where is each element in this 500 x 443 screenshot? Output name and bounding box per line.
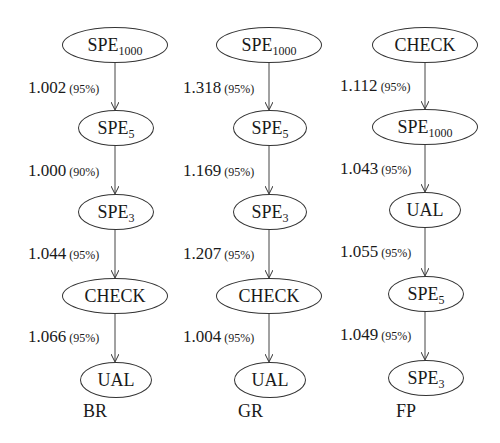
node-label: SPE3: [251, 202, 288, 223]
column-label-fp: FP: [396, 401, 416, 422]
gr-edge-label-4: 1.004(95%): [183, 327, 254, 347]
br-node-spe5: SPE5: [78, 110, 154, 146]
column-label-br: BR: [83, 401, 107, 422]
br-edge-label-3: 1.044(95%): [28, 244, 99, 264]
node-label: SPE5: [407, 284, 444, 305]
br-edge-label-4: 1.066(95%): [28, 327, 99, 347]
node-label: UAL: [98, 370, 135, 391]
fp-node-spe3: SPE3: [388, 360, 464, 396]
gr-node-spe3: SPE3: [233, 194, 307, 230]
gr-node-spe5: SPE5: [233, 110, 307, 146]
node-label: SPE1000: [87, 35, 142, 56]
br-node-ual: UAL: [80, 362, 152, 398]
column-label-gr: GR: [238, 401, 263, 422]
gr-node-check: CHECK: [216, 278, 322, 314]
node-label: CHECK: [394, 35, 455, 56]
node-label: SPE3: [407, 368, 444, 389]
node-label: UAL: [252, 370, 289, 391]
fp-edge-label-1: 1.112(95%): [340, 76, 411, 96]
fp-edge-label-2: 1.043(95%): [340, 159, 411, 179]
fp-node-spe1000: SPE1000: [372, 109, 478, 145]
br-edge-label-1: 1.002(95%): [28, 78, 99, 98]
node-label: SPE5: [251, 118, 288, 139]
br-node-spe1000: SPE1000: [62, 27, 168, 63]
fp-edge-label-4: 1.049(95%): [340, 325, 411, 345]
fp-node-check: CHECK: [372, 27, 478, 63]
fp-node-spe5: SPE5: [388, 276, 464, 312]
br-edge-label-2: 1.000(90%): [28, 161, 99, 181]
gr-node-ual: UAL: [234, 362, 306, 398]
gr-edge-label-1: 1.318(95%): [183, 78, 254, 98]
gr-edge-label-3: 1.207(95%): [183, 244, 254, 264]
br-node-check: CHECK: [62, 278, 168, 314]
node-label: SPE5: [97, 118, 134, 139]
gr-node-spe1000: SPE1000: [216, 27, 322, 63]
fp-edge-label-3: 1.055(95%): [340, 242, 411, 262]
node-label: SPE1000: [397, 117, 452, 138]
fp-node-ual: UAL: [389, 192, 461, 228]
node-label: CHECK: [84, 286, 145, 307]
node-label: SPE3: [97, 202, 134, 223]
node-label: CHECK: [238, 286, 299, 307]
br-node-spe3: SPE3: [78, 194, 154, 230]
gr-edge-label-2: 1.169(95%): [183, 161, 254, 181]
node-label: SPE1000: [241, 35, 296, 56]
node-label: UAL: [407, 200, 444, 221]
